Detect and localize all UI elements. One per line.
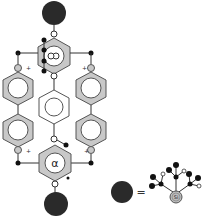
right-biphenyl [76,65,106,154]
charge-label: + [26,147,31,154]
left-biphenyl [3,65,33,154]
alpha-label: α [51,157,58,170]
bottom-open-node [52,181,58,187]
top-open-node [51,31,57,37]
legend-equals: = [136,186,145,199]
charge-label: + [26,64,31,71]
legend-dendron-sphere [111,181,133,203]
legend: = Si [111,162,201,203]
charge-label: + [82,64,87,71]
si-label: Si [174,194,179,200]
bottom-dendron-sphere [44,192,68,216]
top-central-ring [38,38,70,74]
bottom-central-ring: α [39,145,71,181]
molecular-diagram: + + + + α = [0,0,207,217]
charge-label: + [84,147,89,154]
center-benzene [39,73,69,148]
top-dendron-sphere [42,1,66,25]
